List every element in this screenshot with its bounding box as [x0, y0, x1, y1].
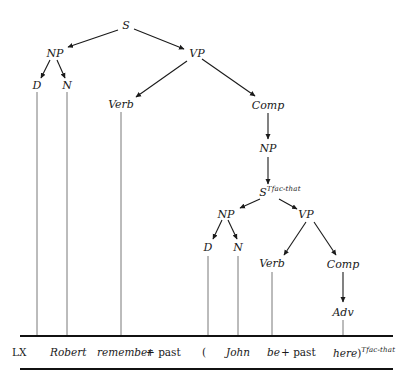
node-np2: NP [217, 208, 234, 221]
node-adv: Adv [332, 306, 353, 319]
embedded-s-label: S [259, 186, 267, 199]
terminal-here-group: here)Tfac-that [333, 346, 395, 359]
node-n: N [62, 79, 72, 92]
node-n2: N [233, 241, 243, 254]
node-verb: Verb [108, 98, 134, 111]
node-comp: Comp [252, 99, 285, 112]
node-vp: VP [189, 47, 204, 60]
node-vp2: VP [298, 208, 313, 221]
node-d: D [33, 79, 42, 92]
node-embedded-s: STfac-that [259, 185, 300, 199]
embedded-s-superscript: Tfac-that [267, 185, 301, 193]
node-verb2: Verb [259, 257, 285, 270]
node-s: S [122, 19, 130, 32]
terminal-superscript: Tfac-that [361, 346, 395, 354]
node-comp-np: NP [259, 142, 276, 155]
node-comp2: Comp [327, 258, 360, 271]
row-label-lx: LX [12, 346, 26, 358]
node-np: NP [46, 47, 63, 60]
terminal-remember: remember [97, 346, 152, 358]
terminal-here: here [333, 347, 357, 359]
terminal-be: be [267, 346, 280, 358]
terminal-plus-past-2: + past [281, 346, 316, 358]
terminal-john: John [226, 346, 250, 358]
node-d2: D [204, 241, 213, 254]
terminal-plus-past-1: + past [146, 346, 181, 358]
terminal-open-paren: ( [202, 346, 206, 358]
terminal-robert: Robert [50, 346, 86, 358]
